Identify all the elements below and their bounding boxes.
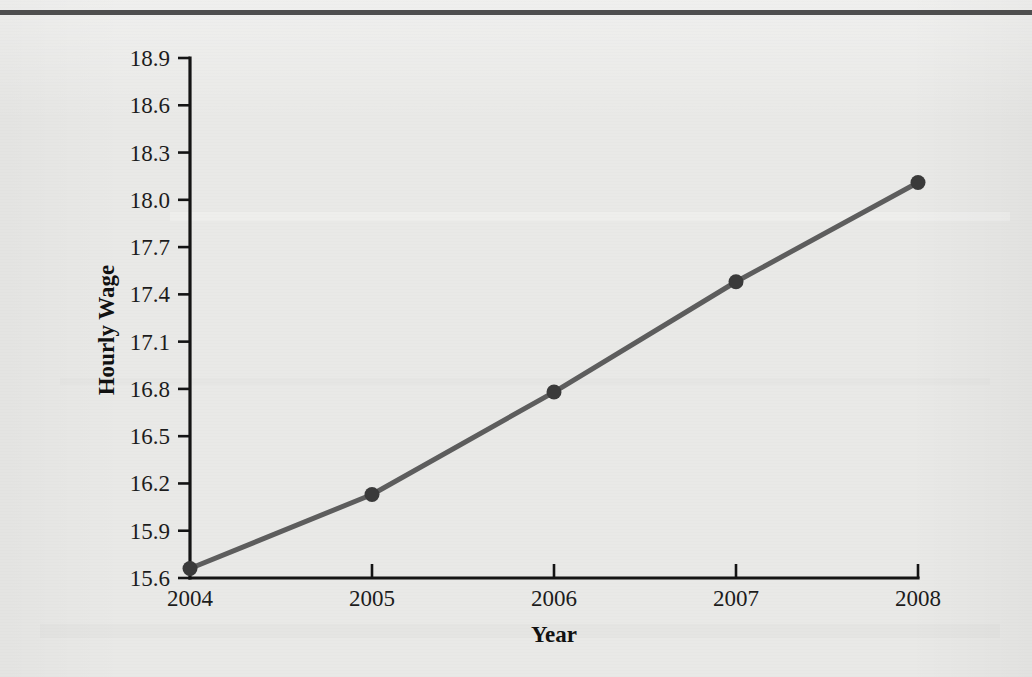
y-tick-label: 18.3	[130, 141, 170, 166]
y-axis-title: Hourly Wage	[94, 265, 119, 396]
data-point-marker	[365, 487, 380, 502]
y-tick-label: 18.6	[130, 93, 170, 118]
y-tick-label: 18.9	[130, 46, 170, 71]
y-tick-label: 16.8	[130, 377, 170, 402]
scanned-page: Hourly Wage Year 15.615.916.216.516.817.…	[0, 0, 1032, 677]
y-tick-label: 15.6	[130, 566, 170, 591]
data-point-marker	[547, 385, 562, 400]
data-point-marker	[183, 561, 198, 576]
data-point-marker	[729, 274, 744, 289]
y-tick-label: 15.9	[130, 519, 170, 544]
x-tick-label: 2004	[167, 586, 214, 611]
x-tick-label: 2005	[349, 586, 395, 611]
y-tick-label: 16.5	[130, 424, 170, 449]
y-tick-label: 17.1	[130, 330, 170, 355]
line-chart: Hourly Wage Year 15.615.916.216.516.817.…	[0, 0, 1032, 677]
data-point-marker	[911, 175, 926, 190]
chart-plot-svg: Hourly Wage Year 15.615.916.216.516.817.…	[0, 0, 1032, 677]
x-axis-title: Year	[531, 622, 577, 647]
x-tick-label: 2006	[531, 586, 577, 611]
x-axis-ticks: 20042005200620072008	[167, 564, 941, 611]
y-tick-label: 17.4	[130, 282, 171, 307]
y-tick-label: 18.0	[130, 188, 170, 213]
x-tick-label: 2008	[895, 586, 941, 611]
data-series-line	[190, 182, 918, 568]
x-tick-label: 2007	[713, 586, 759, 611]
y-tick-label: 17.7	[130, 235, 170, 260]
y-tick-label: 16.2	[130, 471, 170, 496]
data-series-markers	[183, 175, 926, 576]
y-axis-ticks: 15.615.916.216.516.817.117.417.718.018.3…	[130, 46, 190, 591]
